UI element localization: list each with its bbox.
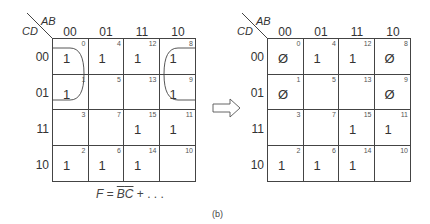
row-label-11: 11 <box>242 122 264 136</box>
minterm-index: 2 <box>82 147 86 154</box>
boolean-expression: F = BC + . . . <box>96 187 164 201</box>
cell-m5: 5 <box>304 75 340 111</box>
minterm-index: 12 <box>149 40 157 47</box>
cell-value: 1 <box>134 158 141 173</box>
cell-value: 1 <box>170 122 177 137</box>
minterm-index: 11 <box>186 111 193 118</box>
cell-m3: 3 <box>268 110 304 146</box>
cell-m14: 141 <box>339 146 375 182</box>
cell-m7: 7 <box>304 110 340 146</box>
cell-m9: 91 <box>160 75 196 111</box>
minterm-index: 4 <box>117 40 121 47</box>
cell-value: Ø <box>278 51 288 66</box>
col-label-01: 01 <box>303 25 339 39</box>
cell-m2: 21 <box>53 146 89 182</box>
row-variable-label: CD <box>22 25 38 37</box>
minterm-index: 14 <box>149 147 157 154</box>
left-map-grid: 01 41 121 81 11 5 13 91 3 7 151 111 21 6… <box>52 38 196 182</box>
cell-value: Ø <box>385 51 395 66</box>
row-label-00: 00 <box>242 50 264 64</box>
formula-prefix: F = <box>96 187 117 201</box>
right-karnaugh-map: AB CD 00 01 11 10 00 01 11 10 0Ø 41 121 … <box>215 0 430 224</box>
cell-value: Ø <box>385 87 395 102</box>
minterm-index: 8 <box>189 40 193 47</box>
cell-m4: 41 <box>304 39 340 75</box>
minterm-index: 0 <box>82 40 86 47</box>
formula-term-b-bar: B <box>117 187 125 201</box>
col-label-00: 00 <box>267 25 303 39</box>
cell-value: 1 <box>134 122 141 137</box>
cell-value: 1 <box>99 158 106 173</box>
cell-m11: 111 <box>375 110 411 146</box>
row-label-10: 10 <box>242 158 264 172</box>
cell-m11: 111 <box>160 110 196 146</box>
cell-m10: 10 <box>375 146 411 182</box>
cell-value: 1 <box>349 51 356 66</box>
cell-value: 1 <box>170 51 177 66</box>
cell-m0: 01 <box>53 39 89 75</box>
cell-m13: 13 <box>124 75 160 111</box>
minterm-index: 14 <box>364 147 372 154</box>
minterm-index: 10 <box>185 147 193 154</box>
cell-m10: 10 <box>160 146 196 182</box>
minterm-index: 1 <box>82 76 86 83</box>
minterm-index: 9 <box>189 76 193 83</box>
minterm-index: 12 <box>364 40 372 47</box>
cell-value: Ø <box>278 87 288 102</box>
cell-value: 1 <box>99 51 106 66</box>
minterm-index: 15 <box>364 111 372 118</box>
row-label-01: 01 <box>242 86 264 100</box>
cell-m12: 121 <box>339 39 375 75</box>
cell-m6: 61 <box>89 146 125 182</box>
minterm-index: 13 <box>149 76 157 83</box>
minterm-index: 8 <box>404 40 408 47</box>
col-label-10: 10 <box>375 25 411 39</box>
cell-m0: 0Ø <box>268 39 304 75</box>
minterm-index: 7 <box>332 111 336 118</box>
col-label-10: 10 <box>160 25 196 39</box>
cell-m1: 1Ø <box>268 75 304 111</box>
cell-value: 1 <box>63 51 70 66</box>
cell-value: 1 <box>134 51 141 66</box>
minterm-index: 11 <box>401 111 408 118</box>
minterm-index: 5 <box>117 76 121 83</box>
minterm-index: 3 <box>82 111 86 118</box>
row-variable-label: CD <box>237 25 253 37</box>
cell-m6: 61 <box>304 146 340 182</box>
row-label-00: 00 <box>27 50 49 64</box>
cell-m5: 5 <box>89 75 125 111</box>
cell-m3: 3 <box>53 110 89 146</box>
minterm-index: 6 <box>332 147 336 154</box>
cell-value: 1 <box>63 158 70 173</box>
cell-m7: 7 <box>89 110 125 146</box>
minterm-index: 1 <box>297 76 301 83</box>
cell-m8: 8Ø <box>375 39 411 75</box>
cell-m1: 11 <box>53 75 89 111</box>
minterm-index: 4 <box>332 40 336 47</box>
cell-m13: 13 <box>339 75 375 111</box>
cell-value: 1 <box>278 158 285 173</box>
cell-m15: 151 <box>339 110 375 146</box>
cell-m15: 151 <box>124 110 160 146</box>
col-label-11: 11 <box>124 25 160 39</box>
row-label-11: 11 <box>27 122 49 136</box>
minterm-index: 6 <box>117 147 121 154</box>
minterm-index: 3 <box>297 111 301 118</box>
col-label-01: 01 <box>88 25 124 39</box>
col-label-00: 00 <box>52 25 88 39</box>
minterm-index: 2 <box>297 147 301 154</box>
cell-m2: 21 <box>268 146 304 182</box>
minterm-index: 10 <box>400 147 408 154</box>
minterm-index: 13 <box>364 76 372 83</box>
cell-value: 1 <box>349 158 356 173</box>
cell-m8: 81 <box>160 39 196 75</box>
formula-suffix: + . . . <box>133 187 163 201</box>
right-map-grid: 0Ø 41 121 8Ø 1Ø 5 13 9Ø 3 7 151 111 21 6… <box>267 38 411 182</box>
cell-m9: 9Ø <box>375 75 411 111</box>
cell-value: 1 <box>314 51 321 66</box>
minterm-index: 0 <box>297 40 301 47</box>
minterm-index: 7 <box>117 111 121 118</box>
cell-value: 1 <box>314 158 321 173</box>
cell-value: 1 <box>349 122 356 137</box>
cell-value: 1 <box>385 122 392 137</box>
